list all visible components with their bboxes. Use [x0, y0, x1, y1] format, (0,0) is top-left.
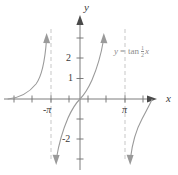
- plot-canvas: [0, 0, 178, 175]
- equation-equals: =: [120, 47, 125, 56]
- y-axis-label: y: [84, 2, 89, 13]
- equation-variable: x: [145, 47, 149, 56]
- equation-function-name: tan: [128, 47, 139, 56]
- equation-coefficient-fraction: 1 2: [141, 45, 144, 59]
- x-tick-label-negative-pi: -π: [43, 105, 51, 115]
- fraction-denominator: 2: [141, 51, 144, 58]
- curve-branch-left-arrowhead: [43, 33, 50, 43]
- equation-lhs: y: [114, 47, 118, 56]
- y-tick-label-2: 2: [66, 53, 71, 63]
- x-axis-label: x: [166, 93, 171, 104]
- curve-branch-center-arrowhead-bottom: [53, 155, 60, 165]
- x-tick-label-positive-pi: π: [122, 105, 127, 115]
- function-graph-figure: y x 2 1 -2 -π π y = tan 1 2 x: [0, 0, 178, 175]
- curve-branch-right-arrowhead: [127, 155, 134, 165]
- curve-branch-center-arrowhead-top: [100, 33, 107, 43]
- curve-branch-left: [8, 40, 47, 99]
- y-tick-label-negative-2: -2: [62, 134, 70, 144]
- curve-branch-right: [131, 100, 153, 159]
- equation-annotation: y = tan 1 2 x: [114, 45, 149, 59]
- y-tick-label-1: 1: [68, 73, 73, 83]
- y-axis-arrowhead: [76, 15, 83, 25]
